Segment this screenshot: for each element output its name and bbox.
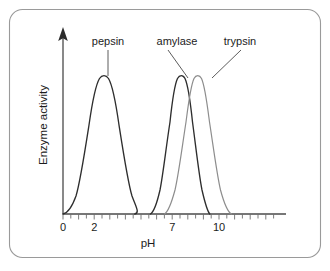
series-label-pepsin: pepsin: [92, 35, 124, 47]
enzyme-activity-figure: 0 2 7 10 pH Enzyme activity pepsin amyla…: [0, 0, 330, 271]
curve-trypsin: [164, 76, 231, 214]
curve-pepsin: [63, 76, 137, 214]
leader-line-amylase: [168, 50, 188, 78]
x-tick-label-0: 0: [60, 221, 66, 233]
curve-amylase: [150, 76, 209, 214]
x-tick-label-10: 10: [213, 221, 225, 233]
series-label-trypsin: trypsin: [224, 35, 256, 47]
series-label-amylase: amylase: [157, 35, 198, 47]
leader-line-trypsin: [212, 50, 241, 78]
x-tick-label-2: 2: [91, 221, 97, 233]
y-axis-title: Enzyme activity: [37, 85, 49, 165]
x-tick-label-7: 7: [169, 221, 175, 233]
x-axis-title: pH: [141, 237, 156, 249]
x-axis-ticks: [63, 214, 274, 220]
enzyme-activity-chart: 0 2 7 10 pH Enzyme activity pepsin amyla…: [0, 0, 330, 271]
